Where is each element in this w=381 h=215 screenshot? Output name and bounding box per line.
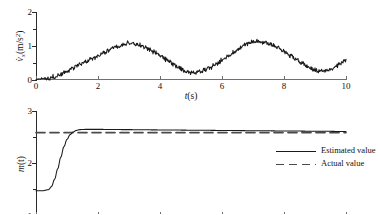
- x-axis-title: t(s): [36, 91, 346, 101]
- x-tick-label-2: 2: [96, 82, 101, 91]
- x-tick-label-10: 10: [342, 82, 351, 91]
- legend-dashed-line-icon: [276, 160, 316, 168]
- legend-solid-line-icon: [276, 147, 316, 155]
- x-tick-10: [346, 76, 347, 80]
- legend-label-actual: Actual value: [321, 158, 364, 169]
- acceleration-trace: [36, 12, 346, 80]
- y-tick-label-3: 3: [28, 107, 33, 116]
- x-tick-label-0: 0: [34, 82, 39, 91]
- y-axis-title: m(t): [16, 156, 26, 172]
- y-axis-title: v̇x(m/s2): [14, 31, 27, 62]
- figure-container: 2 1 0 0 2 4 6 8 10 t(s) v̇x(m/s2): [0, 0, 381, 214]
- y-tick-label-0: 0: [28, 76, 33, 85]
- mass-plot-area: 3 2 1 0 2 4 6 8 10 t(s) m(t) Estimated v…: [36, 111, 346, 214]
- y-tick-label-1: 1: [28, 212, 33, 215]
- x-tick-label-8: 8: [282, 82, 287, 91]
- acceleration-plot-area: 2 1 0 0 2 4 6 8 10 t(s) v̇x(m/s2): [36, 12, 346, 80]
- legend: Estimated value Actual value: [276, 144, 376, 170]
- y-tick-label-2: 2: [28, 8, 33, 17]
- x-tick-label-4: 4: [158, 82, 163, 91]
- y-tick-label-1: 1: [28, 42, 33, 51]
- legend-label-estimated: Estimated value: [321, 145, 376, 156]
- legend-item-estimated: Estimated value: [276, 144, 376, 157]
- acceleration-panel: 2 1 0 0 2 4 6 8 10 t(s) v̇x(m/s2): [0, 0, 381, 107]
- x-tick-10: [346, 212, 347, 214]
- legend-item-actual: Actual value: [276, 157, 376, 170]
- y-tick-label-2: 2: [28, 159, 33, 168]
- mass-estimation-panel: 3 2 1 0 2 4 6 8 10 t(s) m(t) Estimated v…: [0, 105, 381, 214]
- x-tick-label-6: 6: [220, 82, 225, 91]
